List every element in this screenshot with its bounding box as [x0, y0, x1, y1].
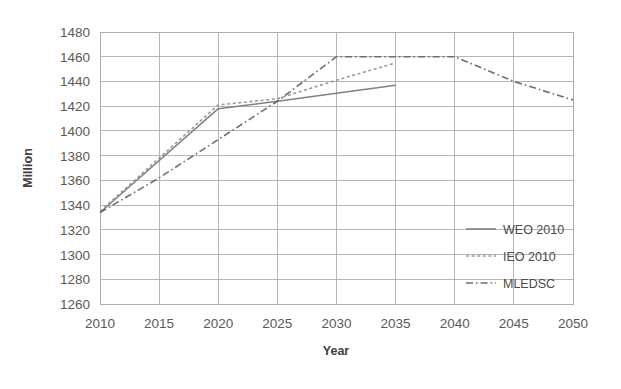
x-tick-label: 2040 — [440, 316, 470, 331]
y-axis-title: Million — [21, 148, 35, 188]
legend-label-mledsc: MLEDSC — [503, 277, 555, 291]
y-tick-label: 1440 — [60, 74, 90, 89]
x-tick-label: 2015 — [144, 316, 174, 331]
x-tick-label: 2035 — [381, 316, 411, 331]
chart-canvas: 1260128013001320134013601380140014201440… — [0, 0, 621, 389]
x-tick-label: 2050 — [558, 316, 588, 331]
y-tick-label: 1360 — [60, 173, 90, 188]
y-tick-label: 1340 — [60, 198, 90, 213]
x-tick-label: 2030 — [321, 316, 351, 331]
y-tick-label: 1280 — [60, 272, 90, 287]
y-tick-label: 1300 — [60, 248, 90, 263]
x-axis-title: Year — [323, 344, 350, 358]
y-tick-label: 1460 — [60, 50, 90, 65]
legend-label-weo-2010: WEO 2010 — [503, 223, 564, 237]
y-tick-label: 1320 — [60, 223, 90, 238]
x-tick-label: 2045 — [499, 316, 529, 331]
x-tick-label: 2025 — [262, 316, 292, 331]
x-axis-tick-labels: 201020152020202520302035204020452050 — [85, 316, 588, 331]
y-tick-label: 1400 — [60, 124, 90, 139]
legend-label-ieo-2010: IEO 2010 — [503, 250, 556, 264]
y-tick-label: 1380 — [60, 149, 90, 164]
y-tick-label: 1260 — [60, 297, 90, 312]
y-tick-label: 1420 — [60, 99, 90, 114]
x-tick-label: 2010 — [85, 316, 115, 331]
line-chart: 1260128013001320134013601380140014201440… — [0, 0, 621, 389]
y-tick-label: 1480 — [60, 25, 90, 40]
x-tick-label: 2020 — [203, 316, 233, 331]
